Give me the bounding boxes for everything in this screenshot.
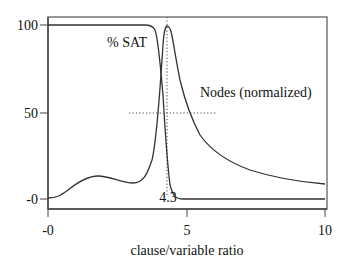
sat-label: % SAT — [107, 35, 148, 50]
y-tick-label-100: 100 — [17, 18, 38, 33]
threshold-label: 4.3 — [159, 190, 177, 205]
nodes-curve — [48, 26, 325, 198]
x-tick-label-0: -0 — [42, 223, 54, 238]
x-axis-label: clause/variable ratio — [130, 243, 243, 258]
chart: 100 50 -0 -0 5 10 clause/variable ratio … — [0, 0, 348, 265]
y-tick-label-50: 50 — [24, 106, 38, 121]
nodes-label: Nodes (normalized) — [200, 85, 312, 101]
y-tick-label-0: -0 — [26, 192, 38, 207]
sat-curve — [48, 25, 325, 199]
x-tick-label-10: 10 — [318, 223, 332, 238]
x-tick-label-5: 5 — [184, 223, 191, 238]
